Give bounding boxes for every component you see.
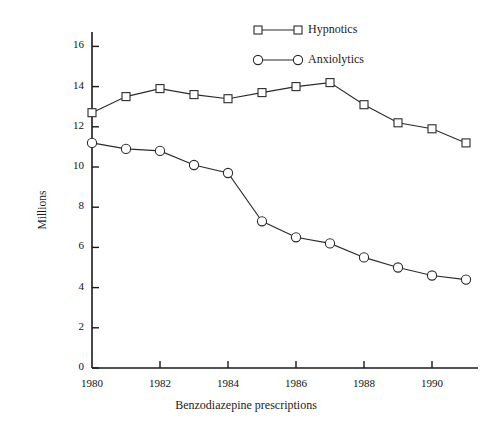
- data-point-anxiolytics: [121, 144, 130, 153]
- x-axis-ticks: [160, 361, 432, 368]
- y-tick-label: 12: [46, 119, 84, 131]
- data-point-hypnotics: [326, 79, 334, 87]
- x-tick-label: 1988: [339, 377, 389, 389]
- data-point-anxiolytics: [393, 263, 402, 272]
- y-tick-label: 0: [46, 360, 84, 372]
- x-tick-label: 1980: [67, 377, 117, 389]
- legend-label-anxiolytics: Anxiolytics: [308, 52, 364, 67]
- data-point-anxiolytics: [87, 138, 96, 147]
- data-point-anxiolytics: [257, 217, 266, 226]
- data-point-anxiolytics: [359, 253, 368, 262]
- data-series-layer: [87, 79, 470, 285]
- data-point-hypnotics: [428, 125, 436, 133]
- data-point-hypnotics: [360, 101, 368, 109]
- series-line-anxiolytics: [92, 143, 466, 280]
- data-point-anxiolytics: [291, 233, 300, 242]
- data-point-anxiolytics: [427, 271, 436, 280]
- data-point-hypnotics: [394, 119, 402, 127]
- y-tick-label: 10: [46, 159, 84, 171]
- y-tick-label: 8: [46, 199, 84, 211]
- series-line-hypnotics: [92, 83, 466, 143]
- y-axis-ticks: [92, 46, 99, 368]
- square-marker-icon: [254, 26, 262, 34]
- y-tick-label: 6: [46, 239, 84, 251]
- x-axis-title: Benzodiazepine prescriptions: [0, 398, 492, 413]
- y-tick-label: 14: [46, 79, 84, 91]
- axis-lines: [92, 32, 478, 368]
- data-point-anxiolytics: [223, 168, 232, 177]
- data-point-hypnotics: [88, 109, 96, 117]
- y-tick-label: 16: [46, 38, 84, 50]
- y-tick-label: 2: [46, 320, 84, 332]
- x-tick-label: 1982: [135, 377, 185, 389]
- data-point-anxiolytics: [325, 239, 334, 248]
- data-point-anxiolytics: [189, 160, 198, 169]
- data-point-hypnotics: [156, 85, 164, 93]
- data-point-hypnotics: [258, 89, 266, 97]
- y-tick-label: 4: [46, 280, 84, 292]
- data-point-hypnotics: [224, 95, 232, 103]
- data-point-anxiolytics: [155, 146, 164, 155]
- data-point-hypnotics: [462, 139, 470, 147]
- data-point-hypnotics: [292, 83, 300, 91]
- line-chart: 0246810121416 198019821984198619881990 M…: [0, 0, 492, 437]
- legend-label-hypnotics: Hypnotics: [308, 22, 357, 37]
- data-point-hypnotics: [122, 93, 130, 101]
- x-tick-label: 1984: [203, 377, 253, 389]
- data-point-anxiolytics: [461, 275, 470, 284]
- y-axis-title: Millions: [36, 170, 48, 250]
- circle-marker-icon: [253, 55, 262, 64]
- x-tick-label: 1990: [407, 377, 457, 389]
- square-marker-icon: [294, 26, 302, 34]
- data-point-hypnotics: [190, 91, 198, 99]
- x-tick-label: 1986: [271, 377, 321, 389]
- legend-markers: [253, 26, 302, 65]
- circle-marker-icon: [293, 55, 302, 64]
